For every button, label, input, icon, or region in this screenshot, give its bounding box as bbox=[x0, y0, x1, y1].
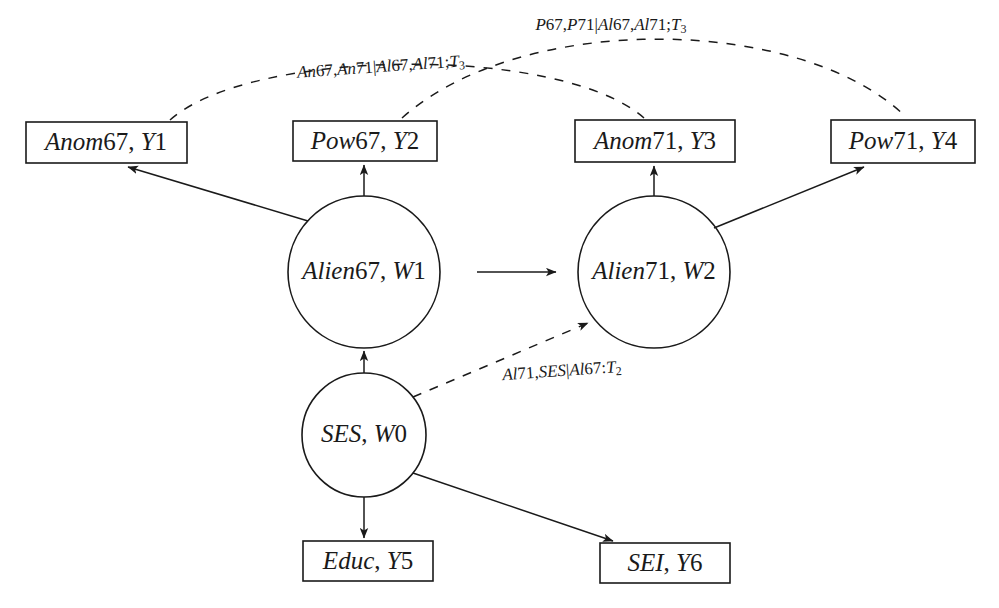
edge-alien71-to-pow71 bbox=[714, 167, 864, 228]
node-alien67: Alien67, W1 bbox=[288, 196, 440, 348]
node-anom71: Anom71, Y3 bbox=[575, 120, 735, 162]
node-sei: SEI, Y6 bbox=[600, 543, 730, 583]
edge-label-pow-correlation: P67,P71|Al67,Al71;T3 bbox=[534, 15, 686, 36]
edge-ses-to-sei bbox=[413, 473, 613, 541]
node-anom67-label: Anom67, Y1 bbox=[43, 128, 167, 155]
edge-alien67-to-anom67 bbox=[128, 167, 308, 221]
node-pow67: Pow67, Y2 bbox=[293, 121, 437, 161]
edge-pow67-to-pow71 bbox=[402, 39, 906, 118]
node-ses-label: SES, W0 bbox=[321, 420, 407, 447]
diagram-canvas: Anom67, Y1 Pow67, Y2 Anom71, Y3 Pow71, Y… bbox=[0, 0, 999, 608]
node-alien71-label: Alien71, W2 bbox=[590, 257, 716, 284]
node-anom67: Anom67, Y1 bbox=[26, 122, 187, 163]
node-pow67-label: Pow67, Y2 bbox=[310, 127, 419, 154]
node-anom71-label: Anom71, Y3 bbox=[592, 127, 716, 154]
node-educ: Educ, Y5 bbox=[303, 541, 433, 581]
node-alien67-label: Alien67, W1 bbox=[300, 257, 426, 284]
edge-label-anom-correlation: An67,An71|Al67,Al71;T3 bbox=[295, 51, 465, 84]
node-educ-label: Educ, Y5 bbox=[322, 547, 413, 574]
node-pow71-label: Pow71, Y4 bbox=[848, 127, 958, 154]
edge-label-ses-alien71: Al71,SES|Al67:T2 bbox=[501, 357, 623, 386]
node-pow71: Pow71, Y4 bbox=[831, 120, 975, 163]
node-sei-label: SEI, Y6 bbox=[627, 549, 702, 576]
node-ses: SES, W0 bbox=[302, 373, 426, 497]
node-alien71: Alien71, W2 bbox=[578, 196, 730, 348]
path-diagram: Anom67, Y1 Pow67, Y2 Anom71, Y3 Pow71, Y… bbox=[0, 0, 999, 608]
